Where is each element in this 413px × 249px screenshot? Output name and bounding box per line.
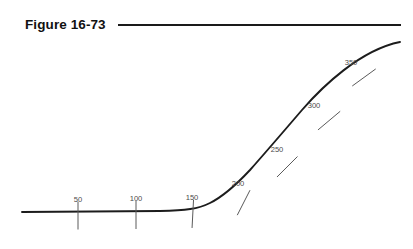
profile-curve [22,42,400,212]
station-tick-300 [318,111,340,130]
station-ticks: 50100150200250300350 [74,58,376,230]
station-label-150: 150 [186,193,199,202]
figure-drawing: 50100150200250300350 [0,0,413,249]
station-tick-150 [192,200,193,228]
station-label-350: 350 [345,58,358,67]
station-label-200: 200 [232,179,245,188]
figure-container: Figure 16-73 50100150200250300350 [0,0,413,249]
station-label-100: 100 [130,194,143,203]
station-label-250: 250 [271,145,284,154]
station-tick-200 [237,190,250,215]
station-label-300: 300 [308,101,321,110]
station-tick-350 [352,69,375,86]
station-label-50: 50 [74,195,82,204]
station-tick-250 [277,157,298,178]
